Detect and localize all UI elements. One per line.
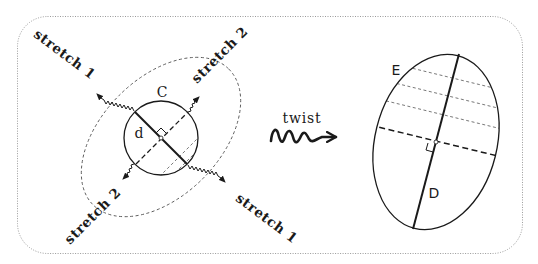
twist-squiggle-arrow (271, 130, 336, 142)
hatched-region (100, 68, 244, 212)
right-panel: E D (355, 41, 516, 243)
stretch-label-lower-right: stretch 1 (233, 190, 301, 247)
center-point (159, 136, 163, 140)
twist-transition: twist (271, 110, 336, 142)
diagram-canvas: C d stretch 1 stretch 2 stretch 2 stretc… (0, 0, 538, 264)
stretch-label-upper-right: stretch 2 (188, 23, 251, 86)
circle-label-c: C (157, 84, 168, 100)
wavy-arrow-upper-right (188, 97, 199, 112)
axis-label-d: D (429, 185, 440, 201)
left-panel: C d stretch 1 stretch 2 stretch 2 stretc… (31, 23, 301, 247)
ellipse-center-point (434, 140, 438, 144)
diameter-label-d: d (135, 125, 144, 141)
wavy-arrow-lower-left (123, 164, 134, 179)
twist-label: twist (283, 110, 322, 126)
stretch-label-upper-left: stretch 1 (31, 26, 99, 83)
ellipse-label-e: E (392, 62, 401, 78)
right-angle-marker-right (426, 143, 433, 152)
wavy-arrow-lower-right (188, 165, 225, 182)
wavy-arrow-upper-left (97, 94, 134, 111)
